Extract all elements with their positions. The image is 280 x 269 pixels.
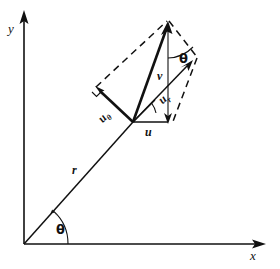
figure-canvas: y x r θ θ u v uθ ur [0,0,280,269]
vector-u-label: u [145,126,152,138]
vector-v-group [164,26,172,124]
radius-label-r: r [72,164,77,176]
vector-diagram-svg [0,0,280,269]
x-axis-label: x [250,249,256,262]
u-theta-corner-tick [92,92,101,97]
position-vector-r-group [24,122,133,244]
y-axis-label: y [8,22,14,35]
base-angle-arc [152,103,157,113]
top-angle-label-theta: θ [179,52,188,65]
position-vector-r-line [24,122,133,244]
origin-angle-label-theta: θ [56,223,65,236]
axis-group [20,10,267,249]
vector-v-label: v [157,70,162,82]
